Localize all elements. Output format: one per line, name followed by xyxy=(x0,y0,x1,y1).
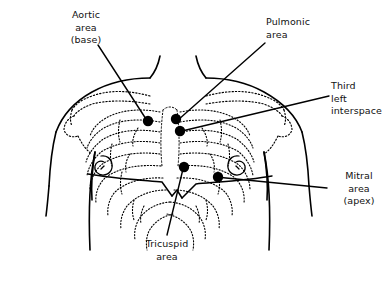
rib-detail-r2 xyxy=(126,154,130,172)
nipple-right-spiral xyxy=(95,156,112,175)
body-outline xyxy=(46,56,312,250)
arm-left-inner xyxy=(89,152,95,250)
nipple-left-tick xyxy=(236,166,239,169)
nipple-right-tick xyxy=(101,166,104,169)
rib-detail-l2 xyxy=(210,154,214,172)
clavicle-right-lower xyxy=(206,101,282,116)
suprasternal-notch xyxy=(163,107,177,110)
arm-right-outer xyxy=(302,132,309,186)
arm-left-lower xyxy=(46,186,49,216)
sternum-left-border xyxy=(161,110,163,166)
label-pulmonic-area: Pulmonic area xyxy=(266,16,338,41)
mitral-leader-line xyxy=(216,177,327,188)
nipple-right xyxy=(95,156,112,175)
arm-right-inner xyxy=(264,152,270,250)
nipple-left xyxy=(228,156,245,175)
rib-cartilage-l1 xyxy=(220,120,222,142)
mitral-area-marker xyxy=(213,172,223,182)
aortic-area-marker xyxy=(143,116,153,126)
rib-l4 xyxy=(180,141,253,176)
neck-right-contour xyxy=(196,56,206,78)
aortic-leader-line xyxy=(98,45,146,119)
rib-cartilage-r3 xyxy=(121,172,123,194)
third-left-interspace-marker xyxy=(175,126,185,136)
armpit-right-fold xyxy=(264,152,267,200)
rib-r7 xyxy=(108,178,163,216)
rib-l9 xyxy=(170,202,205,240)
rib-r9 xyxy=(135,202,170,240)
pulmonic-leader-line xyxy=(178,43,265,120)
rib-l6 xyxy=(179,166,244,204)
rib-l3 xyxy=(180,130,254,162)
scapula-hint-left xyxy=(78,136,92,154)
costal-margin-left xyxy=(88,174,172,196)
nipple-left-spiral xyxy=(228,156,245,175)
rib-cartilage-r1 xyxy=(119,120,121,142)
cardiac-auscultation-diagram: Aortic area (base) Pulmonic area Third l… xyxy=(0,0,391,284)
ribcage-right xyxy=(86,110,173,250)
arm-right-lower xyxy=(309,186,312,216)
scapula-hint-right xyxy=(264,136,278,154)
label-mitral-area: Mitral area (apex) xyxy=(330,170,388,208)
rib-cartilage-r4 xyxy=(133,200,135,220)
tricuspid-area-marker xyxy=(179,162,189,172)
rib-r4 xyxy=(87,141,160,176)
pulmonic-area-marker xyxy=(171,114,181,124)
rib-r6 xyxy=(96,166,161,204)
acromion-left xyxy=(64,116,78,137)
label-tricuspid-area: Tricuspid area xyxy=(134,238,200,263)
arm-left-outer xyxy=(49,132,56,186)
third-leader-line xyxy=(182,96,329,131)
rib-cartilage-l4 xyxy=(206,200,208,220)
label-aortic-area: Aortic area (base) xyxy=(55,9,117,47)
neck-left-contour xyxy=(150,56,160,78)
acromion-right xyxy=(278,116,292,137)
rib-r3 xyxy=(86,130,160,162)
label-third-left-interspace: Third left interspace xyxy=(331,80,391,118)
rib-r8 xyxy=(121,190,166,229)
shoulder-left-contour xyxy=(56,78,150,132)
